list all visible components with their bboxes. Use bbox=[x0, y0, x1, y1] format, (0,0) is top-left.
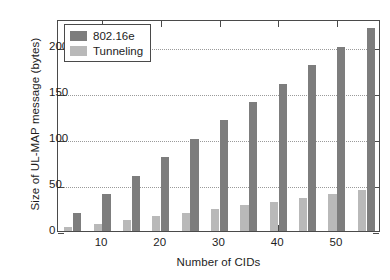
bar-tunneling-50 bbox=[328, 194, 336, 231]
bar-tunneling-5 bbox=[64, 227, 72, 231]
bar-tunneling-25 bbox=[182, 213, 190, 231]
x-axis-label: Number of CIDs bbox=[57, 256, 380, 268]
x-axis-tick-label: 40 bbox=[271, 236, 284, 248]
bar-tunneling-45 bbox=[299, 198, 307, 231]
y-axis-tick bbox=[58, 233, 64, 234]
bar-802-16e-25 bbox=[190, 139, 198, 231]
bar-802-16e-40 bbox=[279, 84, 287, 231]
x-axis-tick-label: 20 bbox=[153, 236, 166, 248]
legend-label-tunneling: Tunneling bbox=[93, 45, 143, 57]
bar-tunneling-30 bbox=[211, 209, 219, 231]
bar-802-16e-35 bbox=[249, 102, 257, 231]
x-axis-tick-label: 10 bbox=[95, 236, 108, 248]
bar-tunneling-40 bbox=[270, 202, 278, 231]
legend-item: 802.16e bbox=[70, 28, 143, 43]
bar-802-16e-10 bbox=[102, 194, 110, 231]
bar-802-16e-30 bbox=[220, 120, 228, 231]
bar-802-16e-55 bbox=[367, 28, 375, 231]
bar-tunneling-15 bbox=[123, 220, 131, 231]
bar-802-16e-15 bbox=[132, 176, 140, 231]
x-axis-tick-label: 30 bbox=[212, 236, 225, 248]
bar-802-16e-50 bbox=[337, 47, 345, 231]
y-axis-label: Size of UL-MAP message (bytes) bbox=[29, 19, 41, 229]
legend-label-802-16e: 802.16e bbox=[93, 30, 135, 42]
bar-tunneling-20 bbox=[152, 216, 160, 231]
legend-swatch-802-16e bbox=[70, 31, 87, 41]
bar-802-16e-45 bbox=[308, 65, 316, 231]
y-axis-tick bbox=[373, 233, 379, 234]
x-axis-tick-label: 50 bbox=[330, 236, 343, 248]
bar-802-16e-5 bbox=[73, 213, 81, 231]
bar-chart-figure: Size of UL-MAP message (bytes) 050100150… bbox=[0, 0, 390, 280]
chart-legend: 802.16e Tunneling bbox=[64, 24, 151, 62]
bar-802-16e-20 bbox=[161, 157, 169, 231]
bar-tunneling-55 bbox=[358, 190, 366, 231]
legend-item: Tunneling bbox=[70, 43, 143, 58]
bar-tunneling-35 bbox=[240, 205, 248, 231]
legend-swatch-tunneling bbox=[70, 46, 87, 56]
bar-tunneling-10 bbox=[94, 224, 102, 231]
